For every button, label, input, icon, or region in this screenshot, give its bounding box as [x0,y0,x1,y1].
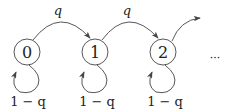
state-node-1: 1 [82,39,108,65]
state-node-0: 0 [14,39,40,65]
continuation-ellipsis: ··· [210,52,221,65]
state-label-2: 2 [158,43,168,62]
state-label-0: 0 [22,43,32,62]
transition-0-1 [33,22,90,40]
state-label-1: 1 [90,43,100,62]
self-loop-label-1: 1 − q [79,94,115,109]
markov-chain-diagram: 0 1 2 q q 1 − q 1 − q 1 − q ··· [0,0,231,111]
self-loop-2 [150,65,175,93]
self-loop-label-0: 1 − q [10,94,46,109]
transition-label-1-2: q [123,3,131,18]
self-loop-1 [82,65,107,93]
transition-2-out [172,18,200,41]
transition-label-0-1: q [54,3,62,18]
self-loop-label-2: 1 − q [147,94,183,109]
self-loop-0 [14,65,39,93]
state-node-2: 2 [150,39,176,65]
transition-1-2 [102,22,158,40]
